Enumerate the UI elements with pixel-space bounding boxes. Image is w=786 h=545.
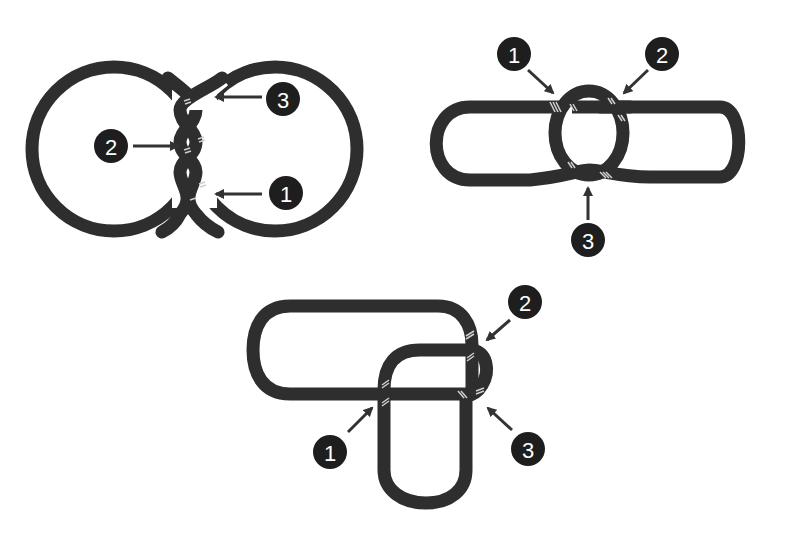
callout-2: 2 [624, 37, 679, 93]
callout-1: 1 [497, 37, 553, 93]
arrow-icon [487, 320, 510, 340]
callout-1: 1 [313, 408, 372, 469]
callout-2: 2 [487, 285, 542, 340]
arrow-icon [528, 70, 553, 93]
badge-label-3: 3 [582, 229, 594, 254]
badge-label-2: 2 [105, 135, 117, 160]
callout-3: 3 [488, 408, 545, 466]
knot-diagram: 3 2 1 1 [0, 0, 786, 545]
callout-1: 1 [216, 176, 303, 210]
arrow-icon [624, 70, 648, 93]
callout-2: 2 [94, 129, 178, 163]
badge-label-1: 1 [280, 182, 292, 207]
arrow-icon [488, 408, 512, 430]
badge-label-3: 3 [522, 438, 534, 463]
panel-two-ring-twist: 3 2 1 [32, 67, 357, 232]
arrow-icon [348, 408, 372, 432]
badge-label-3: 3 [277, 88, 289, 113]
badge-label-2: 2 [519, 291, 531, 316]
panel-ring-through-loop: 1 2 3 [436, 37, 739, 257]
badge-label-1: 1 [324, 441, 336, 466]
panel-interlocked-loops: 2 1 3 [253, 285, 545, 503]
badge-label-1: 1 [508, 43, 520, 68]
callout-3: 3 [571, 188, 605, 257]
badge-label-2: 2 [656, 43, 668, 68]
